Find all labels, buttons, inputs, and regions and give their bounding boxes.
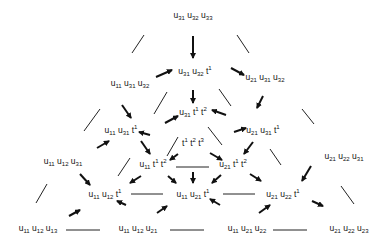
node-label: u21 u22 u31: [324, 152, 363, 162]
node-label: u21 u22 u23: [329, 224, 368, 234]
node-label: u31 t1 t2: [179, 106, 207, 118]
edge-line: [118, 158, 130, 176]
node-label: t1 t2 t3: [182, 137, 204, 148]
arrow-icon: [117, 201, 126, 205]
arrow-icon: [80, 174, 90, 185]
node-label: u31 u32 u33: [173, 11, 212, 21]
node-label: u11 u12 u31: [44, 157, 83, 167]
edge-line: [341, 186, 354, 204]
node-label: u21 u22 t1: [266, 188, 299, 200]
arrow-icon: [234, 128, 246, 132]
arrow-icon: [231, 68, 244, 75]
edge-line: [208, 127, 222, 145]
arrow-icon: [69, 210, 80, 216]
arrow-icon: [157, 206, 167, 213]
arrow-icon: [170, 154, 178, 160]
arrow-icon: [302, 166, 311, 181]
arrow-icon: [122, 105, 131, 118]
arrow-icon: [244, 142, 253, 154]
edge-line: [167, 137, 178, 156]
arrow-icon: [168, 176, 176, 183]
node-label: u11 u12 t1: [89, 188, 122, 200]
node-label: u11 u12 u21: [119, 224, 158, 234]
edge-line: [219, 89, 231, 106]
arrow-icon: [139, 132, 150, 135]
arrow-icon: [130, 176, 141, 183]
arrow-icon: [259, 205, 270, 213]
node-label: u11 u12 u13: [19, 224, 58, 234]
node-label: u11 u31 t1: [105, 124, 138, 136]
arrow-icon: [212, 110, 226, 115]
node-label: u11 t1 t2: [139, 158, 166, 170]
node-label: u31 u32 t1: [178, 65, 211, 77]
edge-line: [132, 35, 144, 53]
node-label: u11 u21 u22: [228, 224, 267, 234]
poset-diagram: u31 u32 u33u31 u32 t1u11 u31 u32u21 u31 …: [0, 0, 388, 246]
node-label: u11 u21 t1: [177, 188, 210, 200]
edge-line: [154, 92, 167, 114]
edges-layer: [0, 0, 388, 246]
edge-line: [84, 109, 100, 131]
arrow-icon: [312, 201, 323, 206]
arrow-icon: [212, 175, 221, 183]
edge-line: [36, 184, 47, 203]
arrow-icon: [257, 96, 263, 108]
node-label: u21 u31 u32: [245, 73, 284, 83]
arrow-icon: [97, 141, 109, 148]
node-label: u21 t1 t2: [219, 158, 247, 170]
node-label: u21 u31 t1: [246, 124, 279, 136]
edge-line: [270, 149, 281, 165]
edge-line: [302, 109, 314, 124]
arrow-icon: [210, 199, 220, 205]
node-label: u11 u31 u32: [111, 79, 150, 89]
arrow-icon: [156, 70, 172, 77]
arrow-icon: [165, 116, 178, 123]
arrow-icon: [250, 174, 261, 181]
arrow-icon: [141, 141, 150, 154]
edge-line: [237, 35, 249, 53]
